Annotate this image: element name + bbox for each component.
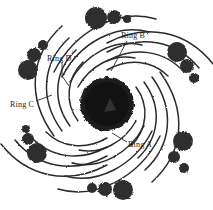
- ring-a-label: Ring A: [128, 140, 152, 149]
- ring-d-label: Ring D: [47, 54, 72, 63]
- cluster-top-left: [18, 40, 48, 80]
- cluster-bottom: [87, 180, 133, 200]
- cluster-bottom-left: [22, 125, 47, 163]
- ring-b-label: Ring B: [121, 31, 145, 40]
- cluster-top: [85, 7, 131, 29]
- ring-c-label: Ring C: [10, 100, 34, 109]
- leader-ring-c: [36, 95, 52, 101]
- ring-structure-figure: Ring A Ring B Ring C Ring D: [0, 0, 213, 210]
- arm-4: [1, 132, 107, 176]
- ring-core: [80, 77, 134, 131]
- cluster-bottom-right: [168, 131, 193, 173]
